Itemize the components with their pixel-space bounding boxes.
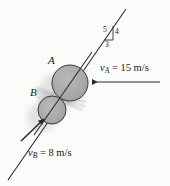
velocity-a-label: vA = 15 m/s <box>100 63 149 74</box>
velocity-b-label: vB = 8 m/s <box>28 148 72 159</box>
disk-a-label: A <box>48 55 55 66</box>
diagram-canvas <box>0 0 170 186</box>
velocity-a-value: = 15 m/s <box>109 62 148 73</box>
slope-hypotenuse-label: 5 <box>103 26 107 34</box>
slope-vertical-label: 4 <box>115 28 119 36</box>
slope-horizontal-label: 3 <box>105 41 109 49</box>
collision-diagram: A B vA = 15 m/s vB = 8 m/s 5 4 3 <box>0 0 170 186</box>
disk-b-label: B <box>30 87 37 98</box>
velocity-b-value: = 8 m/s <box>37 147 71 158</box>
